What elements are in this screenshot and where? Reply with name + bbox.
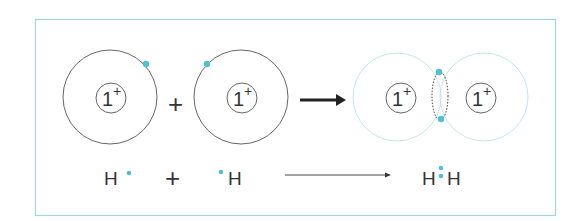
lewis-equation: H + H H H	[104, 163, 461, 193]
hydrogen-atom-1: 1 +	[63, 50, 157, 144]
product-h-right: H	[447, 168, 461, 189]
nucleus-charge: +	[113, 83, 121, 99]
shared-electron-dot	[436, 69, 442, 75]
hydrogen-atom-2: 1 +	[194, 50, 288, 144]
product-h-left: H	[422, 168, 436, 189]
plus-sign: +	[168, 89, 183, 119]
nucleus-label: 1	[472, 88, 483, 110]
electron-dot	[127, 171, 132, 176]
shared-electron-dot	[439, 174, 444, 179]
plus-sign: +	[165, 163, 180, 193]
reaction-arrow-icon	[300, 94, 346, 106]
nucleus-label: 1	[102, 88, 113, 110]
equation-arrow-icon	[285, 173, 391, 178]
electron-dot	[143, 61, 149, 67]
hydrogen-molecule: 1 + 1 +	[353, 53, 528, 141]
nucleus-label: 1	[392, 88, 403, 110]
reactant-h-1: H	[104, 168, 118, 189]
shared-electron-dot	[439, 166, 444, 171]
shared-electron-dot	[438, 116, 444, 122]
nucleus-charge: +	[244, 83, 252, 99]
electron-dot	[204, 61, 210, 67]
hydrogen-bond-diagram: 1 + + 1 + 1 + 1 + H + H	[0, 0, 584, 221]
nucleus-charge: +	[483, 83, 491, 99]
reactant-h-2: H	[228, 168, 242, 189]
electron-dot	[219, 170, 224, 175]
nucleus-charge: +	[403, 83, 411, 99]
nucleus-label: 1	[233, 88, 244, 110]
